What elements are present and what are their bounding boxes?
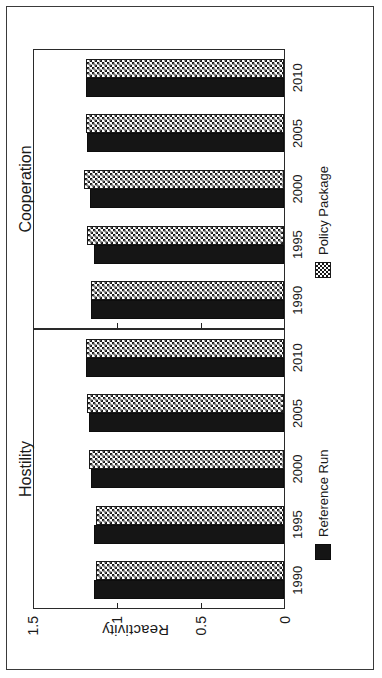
bar-reference-run: [90, 189, 285, 208]
legend-reference-run: Reference Run: [315, 450, 331, 560]
x-tick-label: 2005: [284, 386, 305, 442]
bar-groups-hostility: [34, 330, 284, 608]
bar-group: [34, 161, 284, 217]
x-axis-tick-labels-hostility: 1990 1995 2000 2005 2010: [284, 330, 305, 608]
panel-title-cooperation: Cooperation: [17, 50, 35, 328]
x-tick-label: 1990: [284, 272, 305, 328]
legend-label-reference-run: Reference Run: [316, 450, 331, 537]
legend-label-policy-package: Policy Package: [316, 166, 331, 255]
bar-policy-package: [86, 59, 284, 78]
x-tick-label: 1995: [284, 217, 305, 273]
y-tick-label: 1: [109, 616, 125, 650]
bar-reference-run: [94, 525, 284, 544]
panel-row: Hostility: [33, 49, 285, 609]
bar-reference-run: [87, 133, 285, 152]
x-tick-label: 2010: [284, 330, 305, 386]
x-tick-label: 2000: [284, 161, 305, 217]
bar-reference-run: [91, 469, 284, 488]
panel-cooperation: Cooperation: [33, 49, 285, 329]
x-tick-label: 1995: [284, 497, 305, 553]
bar-reference-run: [86, 358, 284, 377]
bar-policy-package: [96, 506, 284, 525]
x-tick-label: 2010: [284, 50, 305, 106]
legend-policy-package: Policy Package: [315, 166, 331, 278]
bar-reference-run: [86, 78, 284, 97]
bar-chart-figure: Reactivity 0 0.5 1 1.5 Hostility: [15, 14, 367, 664]
bar-policy-package: [86, 114, 284, 133]
y-tick-label: 0.5: [193, 616, 209, 650]
figure-page: Reactivity 0 0.5 1 1.5 Hostility: [0, 0, 382, 678]
bar-group: [34, 552, 284, 608]
bar-group: [34, 330, 284, 386]
bar-groups-cooperation: [34, 50, 284, 328]
y-tick-label: 0: [277, 616, 293, 650]
legend-swatch-reference-run: [315, 544, 331, 560]
rotated-figure-wrapper: Reactivity 0 0.5 1 1.5 Hostility: [15, 14, 367, 664]
bar-group: [34, 441, 284, 497]
legend-swatch-policy-package: [315, 262, 331, 278]
x-axis-tick-labels-cooperation: 1990 1995 2000 2005 2010: [284, 50, 305, 328]
x-tick-label: 1990: [284, 552, 305, 608]
bar-policy-package: [96, 561, 284, 580]
panel-hostility: Hostility: [33, 329, 285, 609]
bar-policy-package: [87, 394, 284, 413]
bar-group: [34, 217, 284, 273]
bar-policy-package: [87, 226, 284, 245]
bar-policy-package: [86, 339, 284, 358]
y-axis-tick-labels: 0 0.5 1 1.5: [33, 616, 285, 650]
bar-policy-package: [84, 170, 284, 189]
bar-group: [34, 386, 284, 442]
bar-policy-package: [89, 450, 284, 469]
plot-area-hostility: 1990 1995 2000 2005 2010: [34, 330, 284, 608]
plot-area-cooperation: 1990 1995 2000 2005 2010: [34, 50, 284, 328]
bar-group: [34, 272, 284, 328]
bar-group: [34, 50, 284, 106]
panel-title-hostility: Hostility: [17, 330, 35, 608]
bar-policy-package: [91, 281, 284, 300]
bar-group: [34, 497, 284, 553]
bar-reference-run: [89, 413, 284, 432]
bar-reference-run: [91, 300, 284, 319]
bar-reference-run: [94, 580, 284, 599]
x-tick-label: 2000: [284, 441, 305, 497]
bar-group: [34, 106, 284, 162]
x-tick-label: 2005: [284, 106, 305, 162]
y-tick-label: 1.5: [25, 616, 41, 650]
bar-reference-run: [94, 245, 284, 264]
